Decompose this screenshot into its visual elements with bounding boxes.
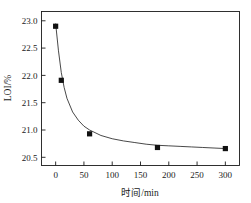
x-tick-label: 150 (134, 170, 148, 180)
y-tick-label: 23.0 (22, 16, 38, 26)
y-tick-label: 22.0 (22, 71, 38, 81)
y-tick-label: 21.5 (22, 98, 38, 108)
data-point (223, 146, 228, 151)
y-axis-ticks (42, 21, 46, 158)
data-point-markers (53, 24, 228, 152)
plot-frame (42, 12, 240, 166)
x-tick-label: 200 (162, 170, 176, 180)
x-tick-label: 300 (219, 170, 233, 180)
data-point (59, 78, 64, 83)
data-point (87, 131, 92, 136)
x-axis-tick-labels: 050100150200250300 (53, 170, 232, 180)
x-tick-label: 0 (53, 170, 58, 180)
y-axis-title: LOI/% (3, 75, 13, 101)
fitted-decay-curve (56, 24, 226, 149)
x-tick-label: 50 (79, 170, 89, 180)
x-tick-label: 100 (105, 170, 119, 180)
x-axis-ticks (56, 162, 226, 166)
y-axis-tick-labels: 20.521.021.522.022.523.0 (22, 16, 38, 163)
data-point (53, 24, 58, 29)
y-tick-label: 22.5 (22, 43, 38, 53)
figure-container: 20.521.021.522.022.523.0 050100150200250… (0, 0, 251, 203)
y-tick-label: 21.0 (22, 125, 38, 135)
data-point (155, 145, 160, 150)
y-tick-label: 20.5 (22, 153, 38, 163)
loi-vs-time-chart: 20.521.021.522.022.523.0 050100150200250… (0, 0, 251, 203)
x-axis-title: 时间/min (121, 187, 159, 198)
x-tick-label: 250 (190, 170, 204, 180)
